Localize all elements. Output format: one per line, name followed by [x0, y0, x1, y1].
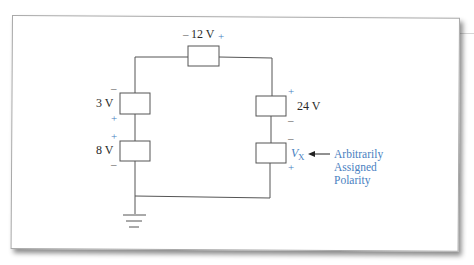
annotation-line-2: Assigned	[334, 161, 377, 174]
3v-bottom-sign: +	[111, 112, 117, 124]
8v-label: 8 V	[96, 143, 114, 157]
wire-top-right	[219, 57, 272, 96]
24v-bottom-sign: –	[287, 114, 294, 126]
element-top-box	[188, 46, 219, 66]
annotation-line-1: Arbitrarily	[334, 148, 383, 161]
element-vx-box	[256, 143, 286, 163]
element-24v-box	[256, 96, 286, 116]
3v-top-sign: –	[110, 82, 117, 94]
24v-label: 24 V	[297, 99, 321, 113]
wires	[135, 57, 272, 214]
circuit-diagram: – 12 V + – 3 V + + 8 V – + 24 V – – V X …	[0, 0, 474, 265]
ground-icon	[123, 215, 146, 227]
24v-top-sign: +	[288, 85, 294, 97]
wire-bottom	[135, 161, 270, 198]
vx-top-sign: –	[287, 132, 294, 144]
8v-bottom-sign: –	[110, 158, 117, 170]
element-3v-box	[120, 93, 150, 114]
annotation-line-3: Polarity	[334, 174, 371, 187]
wire-top-left	[135, 57, 188, 93]
3v-label: 3 V	[96, 96, 114, 110]
vx-subscript: X	[298, 152, 305, 162]
annotation-arrow-icon	[308, 151, 330, 157]
top-plus-sign: +	[218, 30, 224, 42]
8v-top-sign: +	[111, 130, 117, 142]
figure-stage: – 12 V + – 3 V + + 8 V – + 24 V – – V X …	[0, 0, 474, 265]
top-voltage-label: 12 V	[191, 27, 215, 41]
top-minus-sign: –	[182, 28, 189, 40]
vx-bottom-sign: +	[288, 161, 294, 173]
element-8v-box	[120, 141, 150, 161]
